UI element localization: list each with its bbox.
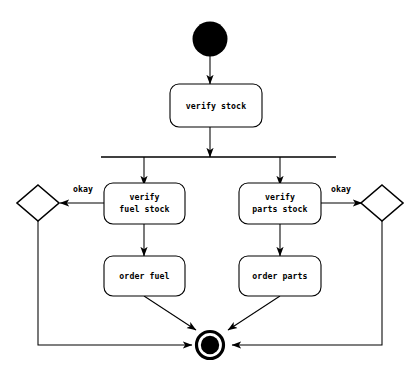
activity-final-node (197, 332, 224, 359)
decision-node-left (17, 185, 59, 221)
action-verify-fuel-stock-label-line2: fuel stock (119, 204, 169, 214)
action-order-fuel: order fuel (104, 256, 185, 296)
initial-node (193, 22, 228, 57)
action-verify-fuel-stock-label-line1: verify (129, 192, 159, 202)
action-order-parts-label: order parts (252, 271, 307, 281)
edge-label-okay-left: okay (73, 184, 93, 194)
action-verify-stock-label: verify stock (186, 101, 246, 111)
decision-node-right (361, 185, 403, 221)
edge-order-parts-to-final (228, 296, 280, 330)
action-verify-parts-stock-label-line2: parts stock (252, 204, 307, 214)
action-order-fuel-label: order fuel (119, 271, 169, 281)
action-order-parts: order parts (239, 256, 321, 296)
edge-order-fuel-to-final (144, 296, 196, 330)
activity-diagram-canvas: okay okay verify stock verify fuel stock… (0, 0, 418, 382)
action-verify-parts-stock: verify parts stock (239, 183, 321, 224)
action-verify-stock: verify stock (170, 84, 262, 127)
action-verify-parts-stock-label-line1: verify (265, 192, 295, 202)
action-verify-fuel-stock: verify fuel stock (104, 183, 185, 224)
edge-label-okay-right: okay (331, 184, 351, 194)
